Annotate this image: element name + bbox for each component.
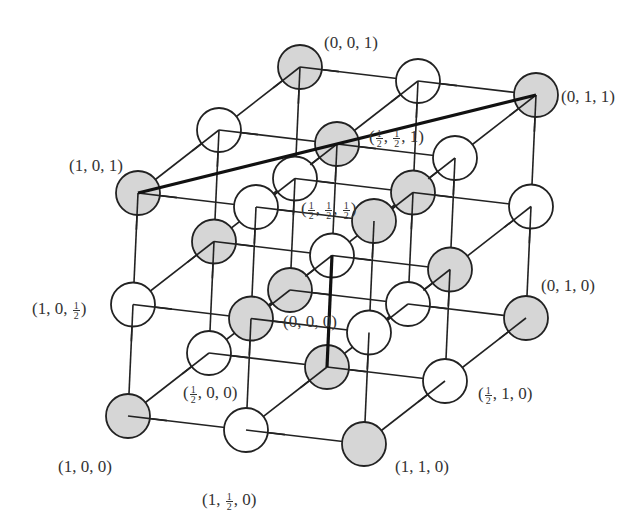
label-text: ( xyxy=(301,199,307,218)
fraction: 12 xyxy=(73,301,80,320)
fraction: 12 xyxy=(485,386,492,405)
fraction: 12 xyxy=(226,492,233,511)
label-text: (1, 0, 0) xyxy=(58,457,112,476)
label-text: (1, 0, 1) xyxy=(69,156,123,175)
highlight-line xyxy=(138,95,536,193)
coordinate-label: (0, 0, 0) xyxy=(283,313,337,330)
coordinate-label: (0, 1, 1) xyxy=(561,88,615,105)
coordinate-label: (1, 0, 1) xyxy=(69,157,123,174)
coordinate-label: (0, 0, 1) xyxy=(324,34,378,51)
label-text: (1, 1, 0) xyxy=(395,457,449,476)
label-text: (1, xyxy=(202,490,225,509)
coordinate-label: (1, 1, 0) xyxy=(395,458,449,475)
coordinate-label: (1, 0, 0) xyxy=(58,458,112,475)
label-text: ( xyxy=(369,127,375,146)
coordinate-label: (12, 1, 0) xyxy=(478,385,532,405)
label-text: , xyxy=(316,199,325,218)
lattice-svg xyxy=(0,0,638,527)
crystal-lattice-diagram: (0, 0, 1)(0, 1, 1)(12, 12, 1)(1, 0, 1)(1… xyxy=(0,0,638,527)
label-text: ) xyxy=(81,299,87,318)
fraction: 12 xyxy=(308,201,315,220)
fraction: 12 xyxy=(376,129,383,148)
coordinate-label: (0, 1, 0) xyxy=(541,277,595,294)
label-text: ) xyxy=(351,199,357,218)
fraction: 12 xyxy=(393,129,400,148)
label-text: (0, 0, 1) xyxy=(324,33,378,52)
fraction: 12 xyxy=(325,201,332,220)
label-text: (0, 0, 0) xyxy=(283,312,337,331)
coordinate-label: (12, 12, 1) xyxy=(369,128,424,148)
label-text: , 1, 0) xyxy=(493,384,533,403)
label-text: ( xyxy=(183,383,189,402)
coordinate-label: (1, 12, 0) xyxy=(202,491,256,511)
label-text: (1, 0, xyxy=(32,299,72,318)
label-text: , xyxy=(333,199,342,218)
label-text: , 1) xyxy=(401,127,424,146)
coordinate-label: (12, 12, 12) xyxy=(301,200,356,220)
gray-atom xyxy=(342,422,386,466)
label-text: , 0, 0) xyxy=(198,383,238,402)
label-text: , xyxy=(384,127,393,146)
fraction: 12 xyxy=(343,201,350,220)
label-text: (0, 1, 1) xyxy=(561,87,615,106)
coordinate-label: (1, 0, 12) xyxy=(32,300,86,320)
label-text: , 0) xyxy=(234,490,257,509)
label-text: (0, 1, 0) xyxy=(541,276,595,295)
fraction: 12 xyxy=(190,385,197,404)
coordinate-label: (12, 0, 0) xyxy=(183,384,237,404)
label-text: ( xyxy=(478,384,484,403)
